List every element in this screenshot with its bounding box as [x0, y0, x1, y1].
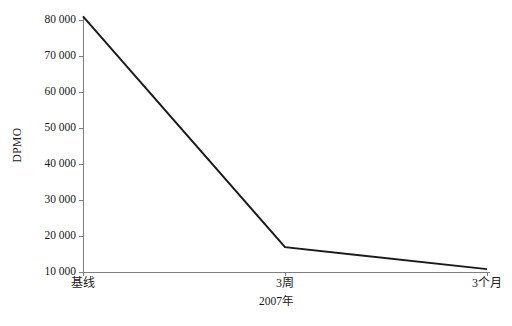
x-axis-title-text: 2007年	[259, 295, 293, 307]
chart-container: DPMO 10 00020 00030 00040 00050 00060 00…	[0, 0, 512, 326]
figure-caption	[0, 318, 512, 326]
x-axis-tick-label: 基线	[71, 277, 95, 289]
x-axis-tick-labels: 基线3周3个月	[0, 0, 512, 326]
x-axis-tick-label: 3个月	[472, 277, 502, 289]
x-axis-title: 2007年	[0, 292, 512, 308]
x-axis-tick-label: 3周	[276, 277, 294, 289]
